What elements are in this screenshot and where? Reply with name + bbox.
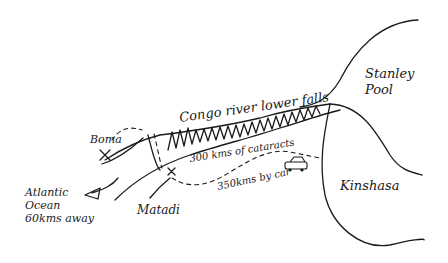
matadi-marker [168, 168, 175, 175]
atlantic-label-2: Ocean [25, 199, 60, 212]
car-route-label: 350kms by car [216, 165, 292, 192]
kinshasa-shore [322, 104, 424, 246]
stanley-pool-label-2: Pool [364, 82, 393, 97]
atlantic-label: Atlantic [24, 186, 68, 199]
boma-label: Boma [89, 133, 122, 146]
matadi-pointer [150, 178, 170, 198]
atlantic-arrow [85, 178, 118, 199]
matadi-label: Matadi [136, 203, 180, 217]
kinshasa-label: Kinshasa [339, 178, 399, 193]
stanley-pool-east-shore [330, 104, 422, 175]
cataracts-label: 300 kms of cataracts [189, 137, 295, 164]
map-drawing: Stanley Pool Congo river lower falls 300… [0, 0, 448, 263]
river-crossing-2 [154, 134, 162, 168]
stanley-pool-label: Stanley [365, 66, 415, 81]
sketch-map: Stanley Pool Congo river lower falls 300… [0, 0, 448, 263]
atlantic-label-3: 60kms away [25, 212, 95, 225]
boma-marker [100, 150, 110, 160]
